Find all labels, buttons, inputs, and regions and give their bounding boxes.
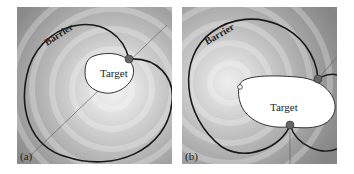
panel-label: (a) [20,150,33,163]
panel-label: (b) [185,150,198,163]
contact-point [125,55,133,63]
target-label: Target [100,67,128,79]
panel-b: Target Barrier (b) [182,7,337,164]
contact-point [286,121,294,129]
contact-point [314,75,322,83]
contour-plot-a: Target Barrier (a) [17,7,172,164]
target-label: Target [270,101,298,113]
contour-plot-b: Target Barrier (b) [182,7,337,164]
panel-a: Target Barrier (a) [17,7,172,164]
open-point [238,85,243,90]
